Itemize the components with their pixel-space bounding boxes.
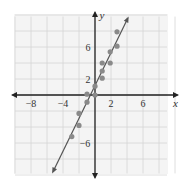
x-tick-label: 2 <box>109 98 114 109</box>
data-point <box>92 84 97 89</box>
data-point <box>100 68 105 73</box>
x-axis-label: x <box>172 97 178 109</box>
data-point <box>100 60 105 65</box>
data-point <box>108 49 113 54</box>
data-point <box>76 111 81 116</box>
data-point <box>69 134 74 139</box>
data-point <box>114 44 119 49</box>
data-point <box>92 92 97 97</box>
y-tick-label: 6 <box>86 42 91 53</box>
data-point <box>114 29 119 34</box>
y-tick-label: 2 <box>86 74 91 85</box>
data-point <box>76 123 81 128</box>
scatter-chart: −8−42626−6xy <box>0 0 183 183</box>
x-tick-label: 6 <box>141 98 146 109</box>
y-axis-arrow-down-icon <box>92 173 98 179</box>
data-point <box>84 92 89 97</box>
x-tick-label: −4 <box>58 98 69 109</box>
data-point <box>84 100 89 105</box>
data-point <box>108 60 113 65</box>
y-tick-label: −6 <box>80 138 91 149</box>
x-tick-label: −8 <box>26 98 37 109</box>
data-point <box>100 76 105 81</box>
y-axis-label: y <box>99 9 105 21</box>
